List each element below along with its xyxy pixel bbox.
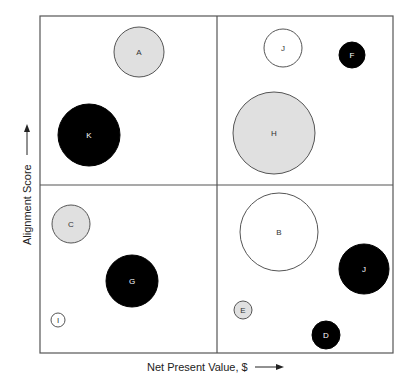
bubble-label: A	[136, 48, 142, 57]
bubble-label: E	[240, 306, 245, 315]
bubble-d: D	[312, 321, 340, 349]
y-axis-label: Alignment Score	[21, 164, 33, 245]
bubble-j: J	[264, 29, 302, 67]
y-axis-label-group: Alignment Score	[21, 164, 33, 245]
bubble-h: H	[233, 92, 315, 174]
bubble-label: C	[68, 220, 74, 229]
x-axis-label: Net Present Value, $	[147, 361, 248, 373]
y-axis-arrowhead-icon	[24, 124, 30, 132]
bubble-e: E	[234, 301, 252, 319]
bubble-label: F	[350, 51, 355, 60]
x-axis-arrowhead-icon	[276, 364, 284, 370]
bubble-label: H	[271, 129, 277, 138]
bubble-label: J	[281, 44, 285, 53]
bubble-a: A	[114, 27, 164, 77]
bubble-label: K	[86, 131, 92, 140]
bubble-label: J	[362, 265, 366, 274]
bubble-j: J	[339, 244, 389, 294]
bubble-k: K	[58, 104, 120, 166]
bubble-c: C	[52, 205, 90, 243]
bubble-chart: AKJFHCGIBJED Alignment Score Net Present…	[0, 0, 414, 385]
bubble-g: G	[106, 255, 158, 307]
bubble-label: I	[57, 316, 59, 325]
bubble-f: F	[339, 42, 365, 68]
bubble-i: I	[51, 313, 65, 327]
bubble-label: D	[323, 331, 329, 340]
bubble-label: G	[129, 277, 135, 286]
bubble-label: B	[276, 228, 281, 237]
bubble-b: B	[240, 193, 318, 271]
